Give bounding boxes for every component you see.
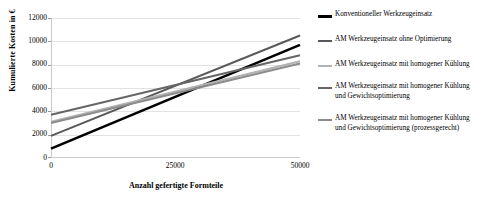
y-tick-label: 0	[1, 154, 47, 162]
legend-item-label: Konventioneller Werkzeugeinsatz	[335, 10, 432, 20]
x-tick-label: 25000	[145, 162, 205, 170]
legend-item-label: AM Werkzeugeinsatz mit homogener Kühlung…	[335, 114, 470, 133]
legend-item[interactable]: Konventioneller Werkzeugeinsatz	[318, 10, 432, 20]
legend-item[interactable]: AM Werkzeugeinsatz ohne Optimierung	[318, 35, 451, 45]
legend-item-label: AM Werkzeugeinsatz mit homogener Kühlung	[335, 60, 470, 70]
legend-item-label: AM Werkzeugeinsatz mit homogener Kühlung…	[335, 82, 470, 101]
legend-swatch-icon	[318, 119, 332, 121]
x-tick-label: 0	[21, 162, 81, 170]
series-lines	[51, 18, 300, 158]
y-tick-label: 4000	[1, 107, 47, 115]
legend-item[interactable]: AM Werkzeugeinsatz mit homogener Kühlung…	[318, 82, 470, 101]
legend-swatch-icon	[318, 40, 332, 42]
series-line	[51, 64, 300, 124]
series-line	[51, 61, 300, 122]
legend-swatch-icon	[318, 87, 332, 89]
y-tick-label: 8000	[1, 60, 47, 68]
y-tick-label: 6000	[1, 84, 47, 92]
legend-swatch-icon	[318, 15, 332, 18]
legend-item-label: AM Werkzeugeinsatz ohne Optimierung	[335, 35, 451, 45]
plot-area	[51, 18, 300, 158]
y-axis-tick-labels: 12000 10000 8000 6000 4000 2000 0	[0, 0, 47, 201]
x-axis-title: Anzahl gefertigte Formteile	[51, 181, 301, 190]
line-chart-figure: Kumulierte Kosten in € 12000 10000 8000 …	[0, 0, 488, 201]
y-tick-label: 12000	[1, 14, 47, 22]
y-tick-label: 10000	[1, 37, 47, 45]
x-tick-label: 50000	[270, 162, 330, 170]
series-line	[51, 55, 300, 115]
legend-item[interactable]: AM Werkzeugeinsatz mit homogener Kühlung	[318, 60, 470, 70]
legend-swatch-icon	[318, 65, 332, 67]
y-tick-label: 2000	[1, 130, 47, 138]
series-line	[51, 45, 300, 149]
legend-item[interactable]: AM Werkzeugeinsatz mit homogener Kühlung…	[318, 114, 470, 133]
